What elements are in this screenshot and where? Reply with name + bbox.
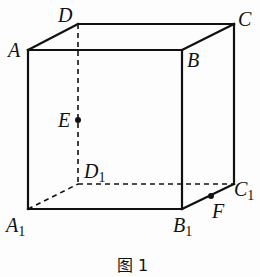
label-D: D xyxy=(57,4,73,26)
label-B: B xyxy=(187,49,199,71)
label-C1: C1 xyxy=(234,178,254,203)
label-D1: D1 xyxy=(83,160,105,185)
edge-A1D1-hidden xyxy=(28,184,78,209)
edge-B1C1 xyxy=(182,184,234,209)
cube-diagram: D A C B E D1 A1 B1 C1 F 图 1 xyxy=(0,0,260,277)
edge-BC xyxy=(182,24,234,50)
label-F: F xyxy=(211,200,225,222)
label-A1: A1 xyxy=(4,214,25,239)
label-E: E xyxy=(57,109,70,131)
label-A: A xyxy=(6,39,21,61)
label-B1: B1 xyxy=(173,214,192,239)
point-E-marker xyxy=(75,117,81,123)
cube-figure: D A C B E D1 A1 B1 C1 F 图 1 xyxy=(0,0,260,277)
label-C: C xyxy=(238,8,252,30)
point-F-marker xyxy=(208,193,214,199)
edge-DA xyxy=(28,24,78,50)
figure-caption: 图 1 xyxy=(117,256,148,275)
